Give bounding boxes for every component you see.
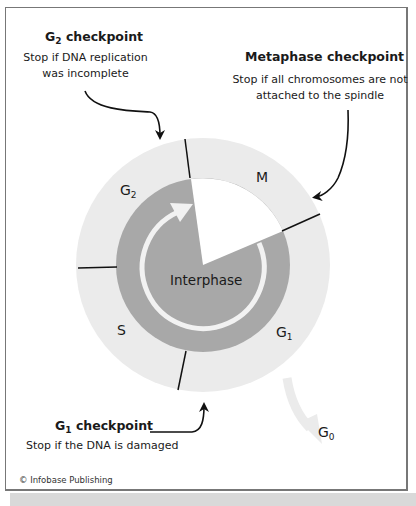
copyright-credit: © Infobase Publishing <box>19 475 113 485</box>
phase-label-g2: G2 <box>120 182 137 198</box>
metaphase-checkpoint-title: Metaphase checkpoint <box>245 49 404 64</box>
g2-checkpoint-line2: was incomplete <box>23 66 148 82</box>
g1-checkpoint-title: G1 checkpoint <box>55 418 153 433</box>
g2-checkpoint-arrow <box>85 91 160 136</box>
metaphase-checkpoint-line1: Stop if all chromosomes are not <box>225 72 415 88</box>
g2-checkpoint-title: G2 checkpoint <box>45 29 143 44</box>
g1-checkpoint-arrow <box>150 406 204 432</box>
phase-label-g0: G0 <box>318 424 335 440</box>
metaphase-checkpoint-arrow <box>316 110 348 197</box>
phase-label-g1: G1 <box>276 324 293 340</box>
divider-s-g2 <box>78 267 117 268</box>
interphase-label: Interphase <box>170 272 242 288</box>
g2-checkpoint-line1: Stop if DNA replication <box>23 50 148 66</box>
g2-checkpoint-description: Stop if DNA replication was incomplete <box>23 50 148 82</box>
phase-label-m: M <box>256 169 268 185</box>
g1-checkpoint-line1: Stop if the DNA is damaged <box>26 439 178 452</box>
metaphase-checkpoint-description: Stop if all chromosomes are not attached… <box>225 72 415 104</box>
metaphase-checkpoint-line2: attached to the spindle <box>225 88 415 104</box>
phase-label-s: S <box>117 322 126 338</box>
